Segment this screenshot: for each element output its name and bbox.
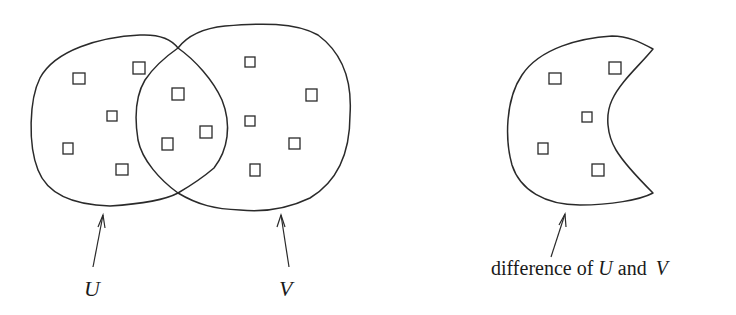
element-square [582,112,592,122]
arrow-u-icon [93,215,105,267]
arrow-v-icon [277,215,289,267]
element-square [549,73,561,84]
arrow-difference-icon [551,214,566,257]
element-square [306,89,317,101]
element-square [116,164,128,175]
element-square [289,138,300,149]
set-u-label: U [84,276,100,302]
caption-set-u: U [598,257,612,279]
elements-u-only [63,62,145,175]
element-square [250,164,260,176]
elements-v-only [245,57,317,176]
set-v-label: V [279,276,292,302]
element-square [200,126,212,138]
difference-caption: difference of U and V [491,257,668,280]
element-square [162,138,173,150]
caption-set-v: V [656,257,668,279]
element-square [538,143,548,154]
element-square [592,164,604,176]
element-square [245,116,255,126]
difference-outline [508,36,653,205]
element-square [73,73,85,84]
element-square [245,57,255,67]
element-square [63,143,73,154]
element-square [172,88,184,100]
elements-difference [538,62,621,176]
caption-mid: and [613,257,652,279]
element-square [133,62,145,74]
set-v-outline [136,24,350,211]
element-square [609,62,621,74]
set-u-outline [31,35,227,206]
elements-intersection [162,88,212,150]
element-square [107,111,117,121]
caption-prefix: difference of [491,257,598,279]
